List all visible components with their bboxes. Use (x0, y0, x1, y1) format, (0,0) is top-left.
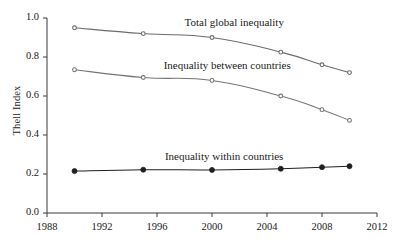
y-tick-label: 0.8 (5, 50, 39, 61)
data-point-marker (347, 164, 352, 169)
data-point-marker (320, 165, 325, 170)
series-3 (72, 164, 352, 174)
y-tick-label: 1.0 (5, 11, 39, 22)
series-label-1: Total global inequality (185, 16, 284, 28)
x-tick-label: 2004 (245, 221, 289, 232)
y-tick-label: 0.4 (5, 128, 39, 139)
data-point-marker (141, 32, 145, 36)
y-axis-ticks (43, 18, 47, 213)
x-axis-ticks (47, 213, 377, 217)
series-line (75, 70, 350, 121)
x-tick-label: 2008 (300, 221, 344, 232)
data-point-marker (320, 63, 324, 67)
y-tick-label: 0.2 (5, 167, 39, 178)
data-point-marker (73, 68, 77, 72)
data-point-marker (279, 94, 283, 98)
axis-lines (47, 18, 377, 213)
data-point-marker (73, 26, 77, 30)
data-point-marker (348, 71, 352, 75)
data-point-marker (279, 50, 283, 54)
x-tick-label: 2000 (190, 221, 234, 232)
data-point-marker (210, 36, 214, 40)
data-point-marker (320, 108, 324, 112)
chart-plot-area (0, 0, 397, 252)
x-tick-label: 2012 (355, 221, 397, 232)
y-tick-label: 0.0 (5, 206, 39, 217)
data-point-marker (72, 169, 77, 174)
y-tick-label: 0.6 (5, 89, 39, 100)
x-tick-label: 1996 (135, 221, 179, 232)
data-point-marker (278, 166, 283, 171)
series-label-3: Inequality within countries (165, 150, 284, 162)
data-point-marker (210, 79, 214, 83)
data-point-marker (141, 167, 146, 172)
series-label-2: Inequality between countries (164, 59, 291, 71)
chart-container: Thell Index 0.00.20.40.60.81.0 198819921… (0, 0, 397, 252)
data-point-marker (210, 167, 215, 172)
x-tick-label: 1988 (25, 221, 69, 232)
data-point-marker (348, 118, 352, 122)
data-point-marker (141, 76, 145, 80)
series-2 (73, 68, 352, 123)
x-tick-label: 1992 (80, 221, 124, 232)
y-axis-title: Thell Index (11, 63, 22, 159)
